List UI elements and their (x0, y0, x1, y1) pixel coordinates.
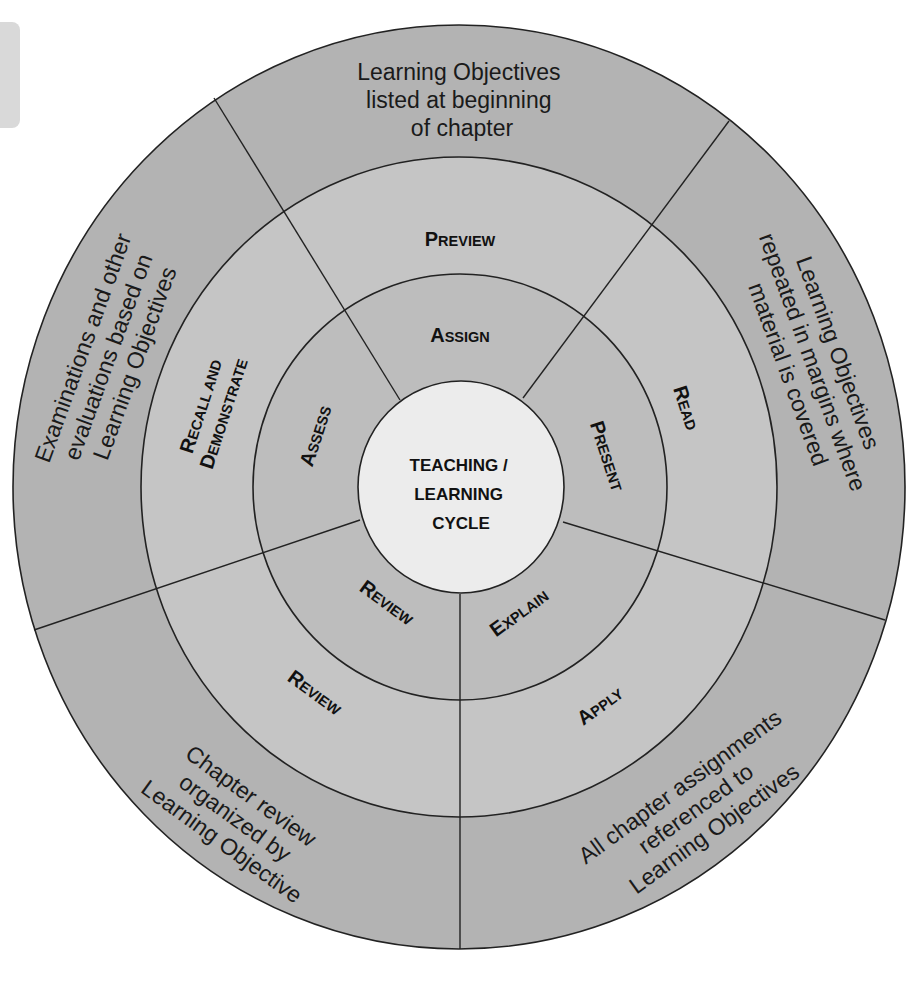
center-line-2: LEARNING (414, 485, 503, 504)
teaching-learning-cycle-diagram: TEACHING / LEARNING CYCLE ASSIGN PRESENT… (0, 0, 911, 983)
center-line-3: CYCLE (432, 514, 490, 533)
center-line-1: TEACHING / (410, 456, 509, 475)
